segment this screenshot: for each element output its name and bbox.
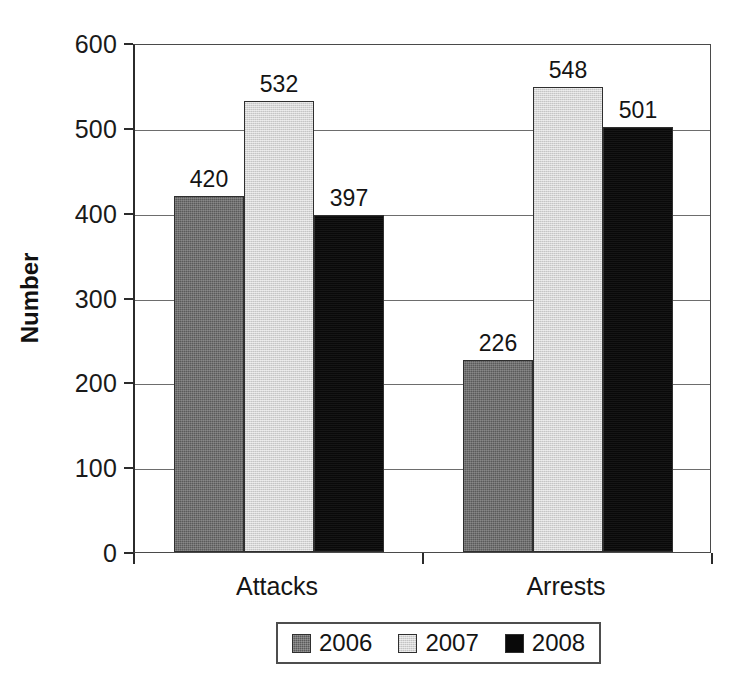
y-axis-tick-mark bbox=[124, 213, 133, 215]
y-axis-tick-label: 100 bbox=[47, 456, 117, 481]
bar-attacks-2006: 420 bbox=[174, 196, 244, 552]
bar-value-label: 532 bbox=[260, 73, 298, 96]
y-axis-tick-label: 200 bbox=[47, 371, 117, 396]
y-axis-tick-label: 0 bbox=[47, 541, 117, 566]
y-axis-tick-mark bbox=[124, 552, 133, 554]
bar-value-label: 548 bbox=[549, 59, 587, 82]
legend-swatch-icon bbox=[398, 634, 417, 653]
y-axis-tick-mark bbox=[124, 382, 133, 384]
y-axis-tick-label: 300 bbox=[47, 286, 117, 311]
chart-legend: 200620072008 bbox=[276, 622, 601, 664]
legend-swatch-icon bbox=[505, 634, 524, 653]
bar-arrests-2007: 548 bbox=[533, 87, 603, 552]
bar-arrests-2008: 501 bbox=[603, 127, 673, 552]
y-axis-tick-label: 400 bbox=[47, 201, 117, 226]
x-axis-category-label-arrests: Arrests bbox=[436, 572, 696, 601]
legend-label: 2008 bbox=[532, 631, 585, 655]
y-axis-tick-label: 600 bbox=[47, 32, 117, 57]
y-axis-title: Number bbox=[16, 198, 44, 398]
x-axis-tick-mark bbox=[422, 553, 424, 564]
x-axis-category-label-attacks: Attacks bbox=[147, 572, 407, 601]
legend-entry-2007: 2007 bbox=[398, 631, 478, 655]
y-axis-tick-label: 500 bbox=[47, 116, 117, 141]
plot-area: 420532397226548501 bbox=[133, 44, 711, 553]
bar-arrests-2006: 226 bbox=[463, 360, 533, 552]
y-axis-tick-mark bbox=[124, 298, 133, 300]
bar-value-label: 397 bbox=[330, 187, 368, 210]
bar-value-label: 226 bbox=[479, 332, 517, 355]
legend-entry-2006: 2006 bbox=[292, 631, 372, 655]
y-axis-tick-mark bbox=[124, 467, 133, 469]
bar-attacks-2007: 532 bbox=[244, 101, 314, 552]
bar-value-label: 420 bbox=[190, 168, 228, 191]
bar-chart-figure: Number 0100200300400500600 AttacksArrest… bbox=[0, 0, 744, 693]
legend-label: 2006 bbox=[319, 631, 372, 655]
y-axis-tick-mark bbox=[124, 128, 133, 130]
y-axis-tick-mark bbox=[124, 43, 133, 45]
legend-swatch-icon bbox=[292, 634, 311, 653]
legend-entry-2008: 2008 bbox=[505, 631, 585, 655]
x-axis-tick-mark bbox=[711, 553, 713, 564]
bar-value-label: 501 bbox=[619, 99, 657, 122]
x-axis-tick-mark bbox=[133, 553, 135, 564]
legend-label: 2007 bbox=[425, 631, 478, 655]
bar-attacks-2008: 397 bbox=[314, 215, 384, 552]
